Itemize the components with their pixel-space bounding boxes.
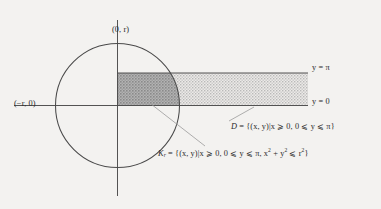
label-set-Kr-subscript: r xyxy=(164,152,166,158)
label-set-D-equals: = xyxy=(239,122,244,131)
label-set-Kr-exponent-x: 2 xyxy=(268,147,271,153)
label-point-left: (−r, 0) xyxy=(14,100,36,108)
leader-line-Kr xyxy=(151,104,205,146)
label-set-Kr-close-brace: } xyxy=(305,149,309,158)
label-point-top: (0, r) xyxy=(112,26,129,34)
leader-line-D xyxy=(229,107,254,121)
label-line-y-pi: y = π xyxy=(312,64,330,72)
label-set-D-body: {(x, y)|x ⩾ 0, 0 ⩽ y ⩽ π} xyxy=(246,122,334,131)
label-line-y-zero: y = 0 xyxy=(312,98,330,106)
label-set-Kr-equals: = xyxy=(168,149,173,158)
label-set-Kr-plus-y: + y xyxy=(273,149,284,158)
figure-canvas: (0, r) (−r, 0) y = π y = 0 D = {(x, y)|x… xyxy=(0,0,381,209)
label-set-D: D = {(x, y)|x ⩾ 0, 0 ⩽ y ⩽ π} xyxy=(231,123,335,131)
label-set-Kr-exponent-y: 2 xyxy=(284,147,287,153)
label-set-D-name: D xyxy=(231,122,237,131)
label-set-Kr: Kr = {(x, y)|x ⩾ 0, 0 ⩽ y ⩽ π, x2 + y2 ⩽… xyxy=(158,150,309,158)
label-set-Kr-body-a: {(x, y)|x ⩾ 0, 0 ⩽ y ⩽ π, x xyxy=(175,149,268,158)
label-set-Kr-relation-r: ⩽ r xyxy=(289,149,301,158)
